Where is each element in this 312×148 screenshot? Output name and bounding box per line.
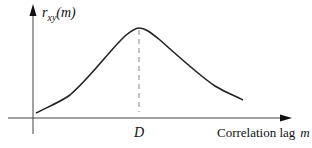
cross-correlation-diagram: rxy(m) D Correlation lagm xyxy=(0,0,312,148)
x-axis-label: Correlation lagm xyxy=(217,125,310,140)
y-axis-arrow-icon xyxy=(30,4,37,16)
peak-lag-label: D xyxy=(133,125,144,140)
x-axis-arrow-icon xyxy=(280,115,292,122)
y-axis-label: rxy(m) xyxy=(42,5,76,23)
